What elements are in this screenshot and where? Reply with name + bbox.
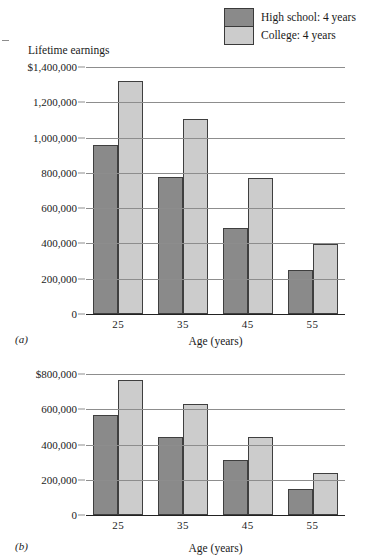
- panel-a-y-axis-title: Lifetime earnings: [28, 44, 109, 56]
- gridline: [86, 208, 345, 209]
- legend-swatch-group: [224, 8, 254, 45]
- panel-a-bar-groups: 25354555: [86, 67, 345, 314]
- panel-a-plot-area: 25354555 $1,400,0001,200,0001,000,000800…: [86, 67, 345, 314]
- legend-label-college: College: 4 years: [261, 26, 356, 44]
- bar: [158, 177, 183, 314]
- y-tick-mark: [78, 208, 85, 209]
- chart-panel-a: Lifetime earnings 25354555 $1,400,0001,2…: [0, 44, 366, 314]
- y-tick-mark: [78, 444, 85, 445]
- gridline: [86, 243, 345, 244]
- y-tick-mark: [78, 314, 85, 315]
- x-tick-label: 35: [177, 318, 189, 330]
- panel-b-plot-area: 25354555 $800,000600,000400,000200,0000: [86, 374, 345, 515]
- y-tick-mark: [78, 172, 85, 173]
- x-tick-label: 55: [307, 318, 319, 330]
- panel-a-tag: (a): [15, 333, 28, 345]
- legend-swatch-college: [225, 27, 253, 44]
- gridline: [86, 480, 345, 481]
- y-tick-mark: [78, 102, 85, 103]
- y-tick-mark: [78, 409, 85, 410]
- panel-a-x-axis-title: Age (years): [86, 335, 345, 347]
- panel-b-tag: (b): [15, 540, 28, 552]
- gridline: [86, 102, 345, 103]
- y-tick-mark: [78, 515, 85, 516]
- bar: [288, 270, 313, 314]
- bar-group: 45: [216, 67, 281, 314]
- y-tick-mark: [78, 67, 85, 68]
- bar: [248, 437, 273, 515]
- y-tick-label: 1,000,000: [33, 132, 77, 144]
- y-tick-label: 600,000: [41, 403, 77, 415]
- edge-dash-artifact: [2, 40, 9, 41]
- y-tick-label: $800,000: [36, 368, 77, 380]
- bar-group: 35: [151, 67, 216, 314]
- x-tick-label: 25: [112, 318, 124, 330]
- bar: [118, 380, 143, 515]
- y-tick-label: 400,000: [41, 439, 77, 451]
- gridline: [86, 374, 345, 375]
- bar-group: 25: [86, 67, 151, 314]
- gridline: [86, 279, 345, 280]
- legend: High school: 4 years College: 4 years: [224, 8, 356, 45]
- x-tick-label: 25: [112, 519, 124, 531]
- bar: [183, 404, 208, 515]
- y-tick-mark: [78, 479, 85, 480]
- bar: [183, 119, 208, 314]
- bar: [248, 178, 273, 314]
- bar: [93, 415, 118, 515]
- gridline: [86, 445, 345, 446]
- y-tick-label: 200,000: [41, 474, 77, 486]
- y-tick-label: 600,000: [41, 202, 77, 214]
- x-tick-label: 35: [177, 519, 189, 531]
- y-tick-label: 0: [72, 509, 78, 521]
- x-tick-label: 45: [242, 318, 254, 330]
- y-tick-label: $1,400,000: [28, 61, 78, 73]
- panel-b-x-axis-title: Age (years): [86, 542, 345, 554]
- gridline: [86, 138, 345, 139]
- y-tick-label: 0: [72, 308, 78, 320]
- axis-baseline: [86, 314, 345, 315]
- y-tick-mark: [78, 137, 85, 138]
- y-tick-mark: [78, 243, 85, 244]
- y-tick-label: 200,000: [41, 273, 77, 285]
- bar: [288, 489, 313, 515]
- legend-label-high-school: High school: 4 years: [261, 8, 356, 26]
- gridline: [86, 173, 345, 174]
- legend-swatch-high-school: [225, 9, 253, 27]
- y-tick-label: 800,000: [41, 167, 77, 179]
- y-tick-label: 1,200,000: [33, 96, 77, 108]
- y-tick-mark: [78, 374, 85, 375]
- axis-baseline: [86, 515, 345, 516]
- x-tick-label: 45: [242, 519, 254, 531]
- y-tick-label: 400,000: [41, 237, 77, 249]
- gridline: [86, 409, 345, 410]
- bar: [223, 460, 248, 515]
- legend-label-group: High school: 4 years College: 4 years: [261, 8, 356, 44]
- chart-panel-b: 25354555 $800,000600,000400,000200,0000 …: [0, 362, 366, 522]
- bar: [93, 145, 118, 314]
- bar: [158, 437, 183, 515]
- x-tick-label: 55: [307, 519, 319, 531]
- bar-group: 55: [280, 67, 345, 314]
- bar: [223, 228, 248, 314]
- gridline: [86, 67, 345, 68]
- y-tick-mark: [78, 278, 85, 279]
